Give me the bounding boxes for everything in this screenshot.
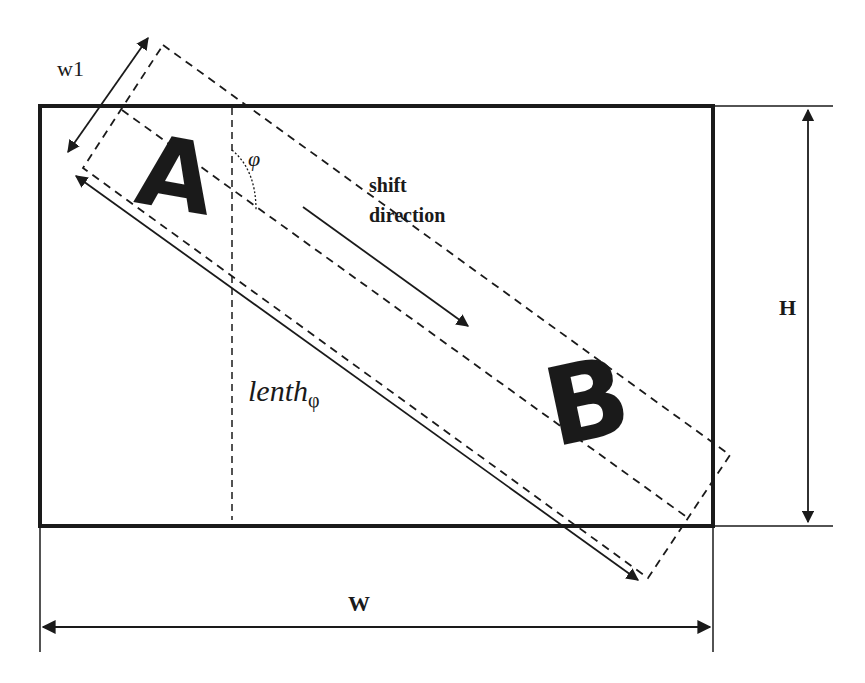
- length-label: lenthφ: [248, 374, 320, 412]
- diagram-canvas: [0, 0, 865, 683]
- height-label: H: [779, 295, 796, 321]
- width-label: W: [348, 591, 370, 617]
- shift-direction-label: shift direction: [369, 170, 445, 230]
- length-label-subscript: φ: [308, 389, 320, 411]
- phi-label: φ: [248, 146, 260, 172]
- shift-label-line2: direction: [369, 200, 445, 230]
- shift-label-line1: shift: [369, 170, 445, 200]
- w1-label: w1: [57, 56, 84, 82]
- length-label-main: lenth: [248, 374, 308, 407]
